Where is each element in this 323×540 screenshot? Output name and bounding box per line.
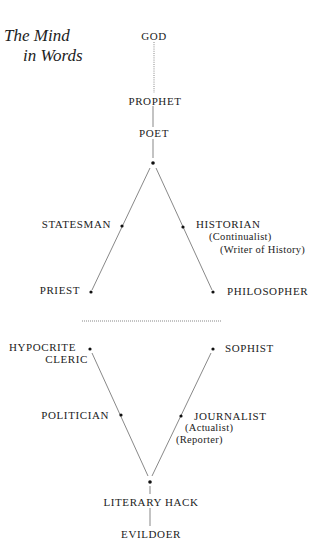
diagram-title-line2: in Words xyxy=(23,46,83,65)
label-cleric: CLERIC xyxy=(45,353,88,365)
label-statesman: STATESMAN xyxy=(42,218,111,230)
historian-dot xyxy=(181,225,184,228)
label-evildoer: EVILDOER xyxy=(121,528,181,540)
hypocrite-dot xyxy=(88,347,91,350)
label-politician: POLITICIAN xyxy=(41,409,109,421)
bottom-apex-dot xyxy=(148,480,152,484)
philosopher-dot xyxy=(211,290,214,293)
apex-dot xyxy=(151,161,155,165)
label-prophet: PROPHET xyxy=(128,95,181,107)
label-god: GOD xyxy=(141,30,167,42)
label-journalist-actualist: (Actualist) xyxy=(185,422,233,434)
sophist-dot xyxy=(211,347,214,350)
label-poet: POET xyxy=(139,127,169,139)
statesman-dot xyxy=(120,224,123,227)
label-priest: PRIEST xyxy=(40,284,80,296)
priest-dot xyxy=(89,290,92,293)
label-sophist: SOPHIST xyxy=(225,342,274,354)
label-philosopher: PHILOSOPHER xyxy=(227,285,308,297)
label-journalist: JOURNALIST xyxy=(194,410,267,422)
politician-dot xyxy=(119,413,122,416)
diagram-title-line1: The Mind xyxy=(4,26,70,45)
label-historian-continualist: (Continualist) xyxy=(209,231,272,243)
label-historian-writer: (Writer of History) xyxy=(220,244,305,256)
label-hypocrite: HYPOCRITE xyxy=(9,341,76,353)
label-historian: HISTORIAN xyxy=(196,218,260,230)
label-journalist-reporter: (Reporter) xyxy=(176,434,223,446)
label-literary-hack: LITERARY HACK xyxy=(103,496,198,508)
journalist-dot xyxy=(179,414,182,417)
